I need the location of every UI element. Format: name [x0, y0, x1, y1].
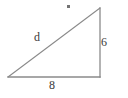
horizontal-leg-label: 8: [49, 79, 55, 91]
hypotenuse-line: [8, 8, 100, 77]
right-triangle-diagram: d 6 8: [0, 0, 128, 98]
stray-mark-icon: [67, 5, 70, 8]
triangle-graphic: [0, 0, 128, 98]
hypotenuse-label: d: [34, 31, 40, 43]
vertical-leg-label: 6: [101, 36, 107, 48]
